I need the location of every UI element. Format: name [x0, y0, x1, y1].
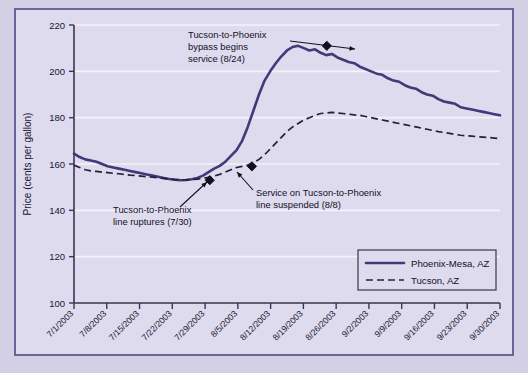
y-tick-label-160: 160: [49, 159, 65, 170]
series-group: [74, 46, 500, 180]
series-line-tucson-az: [74, 112, 500, 179]
x-tick-label-7-8-2003: 7/8/2003: [77, 308, 108, 339]
chart-legend: Phoenix-Mesa, AZTucson, AZ: [358, 250, 496, 290]
x-tick-label-9-9-2003: 9/9/2003: [372, 308, 403, 339]
x-tick-label-7-22-2003: 7/22/2003: [140, 308, 174, 342]
x-tick-label-9-2-2003: 9/2/2003: [340, 308, 371, 339]
y-tick-label-180: 180: [49, 112, 65, 123]
x-tick-label-8-26-2003: 8/26/2003: [303, 308, 337, 342]
data-marker-1: [247, 162, 256, 171]
annotation-bypass-line3: service (8/24): [188, 53, 245, 64]
x-tick-label-9-23-2003: 9/23/2003: [435, 308, 469, 342]
legend-label-1: Tucson, AZ: [411, 275, 459, 286]
y-tick-label-200: 200: [49, 66, 65, 77]
x-tick-label-9-30-2003: 9/30/2003: [467, 308, 501, 342]
annotation-rupture-leader: [180, 182, 207, 207]
y-tick-label-120: 120: [49, 251, 65, 262]
annotation-bypass-line1: Tucson-to-Phoenix: [188, 29, 267, 40]
x-tick-label-8-12-2003: 8/12/2003: [238, 308, 272, 342]
x-tick-label-9-16-2003: 9/16/2003: [402, 308, 436, 342]
tick-labels-group: 1001201401601802002207/1/20037/8/20037/1…: [22, 20, 502, 343]
annotation-suspended-line2: line suspended (8/8): [256, 199, 341, 210]
legend-label-0: Phoenix-Mesa, AZ: [411, 258, 490, 269]
annotation-bypass-line2: bypass begins: [188, 41, 248, 52]
x-tick-label-7-29-2003: 7/29/2003: [172, 308, 206, 342]
x-tick-label-7-1-2003: 7/1/2003: [45, 308, 76, 339]
y-tick-label-140: 140: [49, 205, 65, 216]
chart-figure: 1001201401601802002207/1/20037/8/20037/1…: [0, 0, 528, 373]
x-tick-label-8-19-2003: 8/19/2003: [271, 308, 305, 342]
annotation-rupture-line1: Tucson-to-Phoenix: [113, 204, 192, 215]
chart-plot-container: 1001201401601802002207/1/20037/8/20037/1…: [0, 0, 528, 373]
annotation-suspended-line1: Service on Tucson-to-Phoenix: [256, 187, 381, 198]
y-axis-title: Price (cents per gallon): [22, 113, 33, 216]
x-tick-label-7-15-2003: 7/15/2003: [107, 308, 141, 342]
y-tick-label-100: 100: [49, 298, 65, 309]
annotation-bypass-arrowhead: [349, 46, 355, 51]
x-tick-label-8-5-2003: 8/5/2003: [209, 308, 240, 339]
gasoline-price-line-chart: 1001201401601802002207/1/20037/8/20037/1…: [0, 0, 528, 373]
y-tick-label-220: 220: [49, 20, 65, 31]
annotation-rupture-line2: line ruptures (7/30): [113, 216, 192, 227]
series-line-phoenix-mesa-az: [74, 46, 500, 180]
